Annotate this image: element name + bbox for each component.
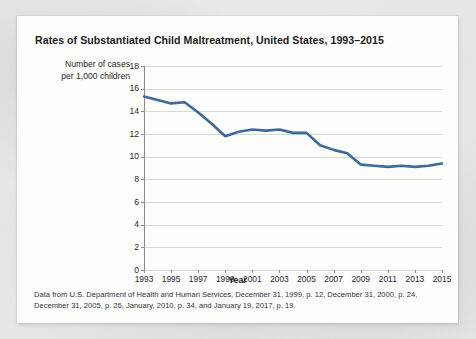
x-tick-mark-2015 (442, 270, 443, 273)
y-tick-mark-2 (141, 247, 144, 248)
x-tick-mark-1995 (171, 270, 172, 273)
y-tick-mark-8 (141, 179, 144, 180)
x-tick-mark-2007 (334, 270, 335, 273)
y-tick-mark-18 (141, 66, 144, 67)
y-tick-mark-12 (141, 134, 144, 135)
data-series-line (144, 66, 442, 271)
y-tick-label-8: 8 (117, 174, 139, 184)
y-tick-label-14: 14 (117, 106, 139, 116)
y-tick-label-12: 12 (117, 129, 139, 139)
source-note: Data from U.S. Department of Health and … (34, 290, 444, 311)
x-tick-mark-2005 (307, 270, 308, 273)
y-tick-label-0: 0 (117, 265, 139, 275)
x-tick-mark-1999 (225, 270, 226, 273)
x-tick-mark-2001 (252, 270, 253, 273)
y-tick-mark-4 (141, 225, 144, 226)
x-tick-mark-2011 (388, 270, 389, 273)
x-tick-mark-1993 (144, 270, 145, 273)
y-tick-mark-10 (141, 157, 144, 158)
chart-card: Rates of Substantiated Child Maltreatmen… (17, 16, 458, 323)
x-tick-mark-1997 (198, 270, 199, 273)
x-axis-label: Year (17, 275, 458, 285)
y-tick-label-2: 2 (117, 242, 139, 252)
y-tick-mark-16 (141, 89, 144, 90)
x-tick-mark-2003 (279, 270, 280, 273)
x-tick-mark-2009 (361, 270, 362, 273)
x-tick-mark-2013 (415, 270, 416, 273)
y-tick-label-18: 18 (117, 61, 139, 71)
y-tick-label-16: 16 (117, 83, 139, 93)
y-tick-mark-6 (141, 202, 144, 203)
y-tick-label-6: 6 (117, 197, 139, 207)
y-tick-mark-14 (141, 111, 144, 112)
y-tick-label-4: 4 (117, 219, 139, 229)
y-tick-label-10: 10 (117, 151, 139, 161)
